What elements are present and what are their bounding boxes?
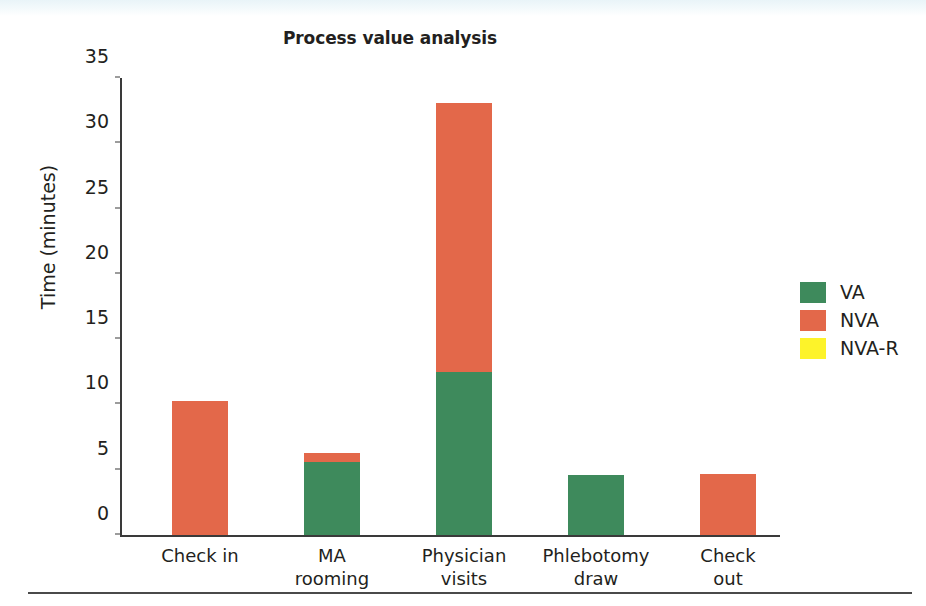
plot-area: 05101520253035 Check inMAroomingPhysicia… [120,78,780,535]
x-axis-tick-label: Check in [125,544,275,567]
bar-segment-nva [172,401,228,535]
x-axis-tick-label: Physicianvisits [389,544,539,590]
bar-ma-rooming[interactable]: MArooming [304,453,360,535]
legend-item-nva[interactable]: NVA [800,306,899,334]
x-axis-line [120,535,780,537]
y-axis-tick-label: 0 [97,502,109,524]
y-axis-tick-label: 35 [85,45,109,67]
legend-item-nva-r[interactable]: NVA-R [800,334,899,362]
y-axis-tick-label: 30 [85,110,109,132]
x-axis-tick-label: Checkout [653,544,803,590]
bar-phlebotomy-draw[interactable]: Phlebotomydraw [568,475,624,535]
chart-legend: VANVANVA-R [800,278,899,362]
y-axis-tick-label: 20 [85,241,109,263]
y-axis-tick-mark [115,207,120,208]
legend-label: NVA-R [840,337,899,359]
x-axis-tick-line: Check [653,544,803,567]
y-axis-tick-label: 25 [85,176,109,198]
y-axis-tick-mark [115,142,120,143]
y-axis-tick-mark [115,272,120,273]
legend-swatch-icon [800,310,826,331]
bar-segment-nva [304,453,360,462]
process-value-analysis-chart: Process value analysis Time (minutes) 05… [0,0,926,606]
bar-segment-va [436,372,492,535]
bar-segment-nva [700,474,756,535]
x-axis-tick-line: visits [389,567,539,590]
x-axis-tick-line: Physician [389,544,539,567]
bar-segment-va [568,475,624,535]
bar-physician-visits[interactable]: Physicianvisits [436,103,492,535]
bar-check-in[interactable]: Check in [172,401,228,535]
x-axis-tick-line: rooming [257,567,407,590]
bar-segment-nva [436,103,492,372]
y-axis-tick-mark [115,338,120,339]
bar-segment-va [304,462,360,535]
legend-label: VA [840,281,865,303]
x-axis-tick-label: MArooming [257,544,407,590]
x-axis-tick-line: draw [521,567,671,590]
legend-label: NVA [840,309,879,331]
y-axis-tick-mark [115,77,120,78]
x-axis-tick-line: MA [257,544,407,567]
y-axis-tick-label: 5 [97,437,109,459]
y-axis-line [120,78,122,535]
x-axis-tick-label: Phlebotomydraw [521,544,671,590]
page-footer-rule [28,592,912,594]
x-axis-tick-line: out [653,567,803,590]
bar-check-out[interactable]: Checkout [700,474,756,535]
x-axis-tick-line: Phlebotomy [521,544,671,567]
legend-swatch-icon [800,282,826,303]
y-axis-tick-label: 10 [85,371,109,393]
legend-swatch-icon [800,338,826,359]
y-axis-title: Time (minutes) [37,137,59,337]
y-axis-tick-mark [115,468,120,469]
y-axis-tick-mark [115,534,120,535]
y-axis-tick-mark [115,403,120,404]
chart-title: Process value analysis [0,28,780,48]
legend-item-va[interactable]: VA [800,278,899,306]
x-axis-tick-line: Check in [125,544,275,567]
y-axis-tick-label: 15 [85,306,109,328]
